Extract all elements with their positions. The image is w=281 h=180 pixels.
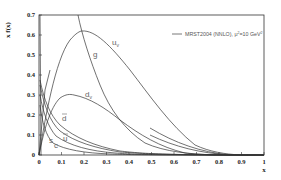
y-axis-label: x f(x) (4, 21, 12, 37)
x-tick-label: 0.2 (80, 158, 88, 165)
label-uv: uv (112, 38, 119, 48)
legend-text: MRST2004 (NNLO), μ2=10 GeV2 (185, 31, 263, 37)
label-s: s (49, 136, 53, 145)
curve-dbar (40, 80, 264, 155)
x-tick-label: 0.8 (215, 158, 224, 165)
label-g: g (93, 50, 97, 59)
label-dv: dv (85, 90, 92, 100)
x-tick-label: 0.4 (125, 158, 134, 165)
label-dbar: d (62, 114, 66, 123)
x-tick-label: 0.1 (57, 158, 65, 165)
curve-labels: uv g dv d u s c (49, 38, 119, 150)
x-tick-label: 0.7 (192, 158, 201, 165)
x-tick-label: 0 (37, 158, 40, 165)
y-tick-label: 0 (32, 151, 35, 158)
x-tick-label: 0.3 (102, 158, 111, 165)
x-tick-label: 0.6 (170, 158, 179, 165)
y-tick-label: 0.6 (27, 31, 36, 38)
x-tick-label: 0.5 (147, 158, 156, 165)
y-tick-label: 0.5 (27, 51, 36, 58)
curve-ubar (40, 85, 264, 155)
curve-c (40, 105, 264, 155)
x-tick-label: 1 (262, 158, 265, 165)
curve-dv-tail (150, 128, 230, 155)
y-tick-label: 0.3 (27, 91, 36, 98)
pdf-chart: 00.10.20.30.40.50.60.7 00.10.20.30.40.50… (0, 0, 281, 180)
y-tick-label: 0.1 (27, 131, 35, 138)
label-c: c (54, 141, 58, 150)
legend: MRST2004 (NNLO), μ2=10 GeV2 (172, 31, 263, 37)
y-tick-label: 0.7 (27, 11, 36, 18)
label-ubar: u (63, 134, 67, 143)
y-tick-label: 0.4 (27, 71, 36, 78)
x-tick-label: 0.9 (237, 158, 246, 165)
x-axis-label: x (262, 166, 266, 174)
y-axis: 00.10.20.30.40.50.60.7 (27, 11, 42, 158)
curve-uv (39, 31, 264, 155)
y-tick-label: 0.2 (27, 111, 35, 118)
